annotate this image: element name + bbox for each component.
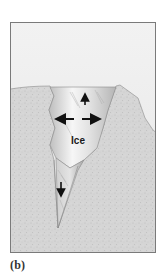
frost-wedging-diagram: Ice (b) (0, 0, 166, 278)
figure-caption: (b) (10, 258, 25, 273)
ice-label: Ice (71, 135, 85, 146)
